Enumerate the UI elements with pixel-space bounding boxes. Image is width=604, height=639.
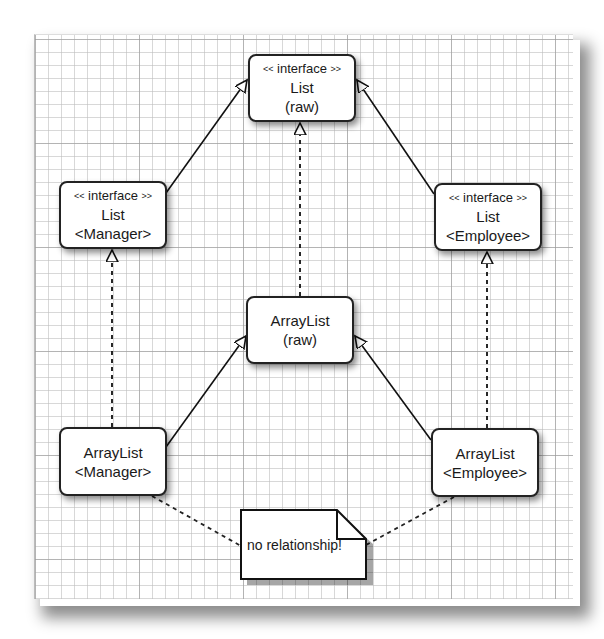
node-name: List (476, 207, 499, 226)
stereotype-text: interface (88, 188, 138, 203)
guillemet-close: >> (331, 64, 342, 74)
node-type-param: <Employee> (446, 226, 530, 245)
diagram-canvas: << interface >> List (raw) << interface … (0, 0, 604, 639)
guillemet-open: << (449, 193, 460, 203)
edge-list-manager-to-list-raw (166, 80, 247, 193)
node-list-raw: << interface >> List (raw) (248, 54, 356, 122)
guillemet-open: << (263, 64, 274, 74)
guillemet-close: >> (517, 193, 528, 203)
node-name: List (101, 205, 124, 224)
node-type-param: (raw) (285, 97, 319, 116)
node-list-employee: << interface >> List <Employee> (434, 183, 542, 251)
node-list-manager: << interface >> List <Manager> (59, 181, 167, 249)
stereotype-text: interface (277, 61, 327, 76)
node-type-param: <Manager> (75, 224, 152, 243)
node-arraylist-raw: ArrayList (raw) (246, 296, 354, 364)
node-name: ArrayList (83, 443, 142, 462)
node-name: ArrayList (270, 311, 329, 330)
edge-arraylist-manager-to-arraylist-raw (166, 336, 246, 447)
stereotype-label: << interface >> (74, 187, 152, 205)
stereotype-text: interface (463, 190, 513, 205)
node-type-param: <Employee> (443, 463, 527, 482)
node-arraylist-manager: ArrayList <Manager> (59, 427, 167, 496)
note-text: no relationship! (247, 537, 342, 553)
node-type-param: <Manager> (75, 462, 152, 481)
note-anchor-manager (152, 496, 241, 546)
stereotype-label: << interface >> (263, 60, 341, 78)
note-anchor-employee (366, 497, 454, 545)
stereotype-label: << interface >> (449, 189, 527, 207)
node-name: ArrayList (455, 444, 514, 463)
guillemet-close: >> (142, 191, 153, 201)
node-type-param: (raw) (283, 330, 317, 349)
node-arraylist-employee: ArrayList <Employee> (431, 428, 539, 497)
node-name: List (290, 78, 313, 97)
edge-list-employee-to-list-raw (357, 80, 434, 194)
edge-arraylist-employee-to-arraylist-raw (355, 336, 431, 440)
guillemet-open: << (74, 191, 85, 201)
